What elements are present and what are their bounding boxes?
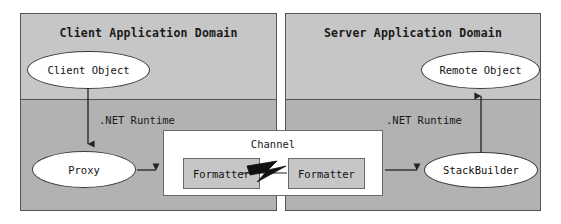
formatter-left-label: Formatter xyxy=(193,168,250,180)
server-runtime-label: .NET Runtime xyxy=(386,114,462,126)
formatter-box-right: Formatter xyxy=(288,158,365,189)
client-runtime-label: .NET Runtime xyxy=(99,114,175,126)
stackbuilder-label: StackBuilder xyxy=(443,164,519,176)
formatter-right-label: Formatter xyxy=(298,168,355,180)
remote-object-label: Remote Object xyxy=(439,64,521,76)
proxy-node: Proxy xyxy=(32,151,136,188)
proxy-label: Proxy xyxy=(68,164,100,176)
client-domain-title: Client Application Domain xyxy=(21,26,276,40)
remoting-architecture-diagram: Client Application Domain .NET Runtime S… xyxy=(0,0,561,224)
stackbuilder-node: StackBuilder xyxy=(424,152,538,188)
client-object-node: Client Object xyxy=(27,51,150,89)
client-object-label: Client Object xyxy=(47,64,129,76)
channel-title: Channel xyxy=(164,138,382,150)
channel-box: Channel Formatter Formatter xyxy=(163,130,383,196)
remote-object-node: Remote Object xyxy=(421,51,540,89)
formatter-box-left: Formatter xyxy=(183,158,260,189)
server-domain-title: Server Application Domain xyxy=(286,26,540,40)
